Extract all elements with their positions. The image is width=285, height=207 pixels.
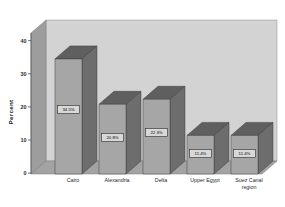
plot-left-wall [31, 20, 46, 174]
x-category-label-suez-canal-line2: region [242, 184, 257, 190]
x-category-label-delta: Delta [155, 177, 167, 183]
chart-canvas: 40 30 20 10 0 Percent [0, 0, 285, 207]
y-tick-label: 30 [21, 71, 27, 77]
x-category-label-alexandria: Alexandria [104, 177, 129, 183]
bar-value-label: 11.4% [234, 150, 256, 158]
value-label-text: 11.4% [195, 151, 207, 156]
bar-value-label: 11.4% [190, 150, 212, 158]
x-category-label-upper-egypt: Upper Egypt [190, 177, 220, 183]
bar-cairo[interactable]: 34.5% [55, 46, 97, 174]
bar-upper-egypt[interactable]: 11.4% [187, 122, 229, 174]
y-tick-label: 0 [24, 170, 27, 176]
bar-front-face [55, 59, 82, 174]
value-label-text: 34.5% [62, 107, 74, 112]
bar-chart: 40 30 20 10 0 Percent [0, 0, 285, 207]
bar-side-face [170, 86, 185, 174]
value-label-text: 20.8% [106, 135, 118, 140]
value-label-text: 11.4% [239, 151, 251, 156]
bar-delta[interactable]: 22.3% [143, 86, 185, 174]
bar-suez-canal-region[interactable]: 11.4% [231, 122, 273, 174]
y-tick-label: 20 [21, 104, 27, 110]
bar-value-label: 22.3% [146, 129, 168, 137]
bar-value-label: 20.8% [102, 134, 124, 142]
bar-side-face [82, 46, 97, 174]
bar-value-label: 34.5% [58, 106, 80, 114]
bar-side-face [126, 91, 141, 174]
value-label-text: 22.3% [150, 130, 162, 135]
x-category-label-suez-canal: Suez Canal [235, 177, 262, 183]
y-axis-title: Percent [7, 100, 14, 125]
y-tick-label: 10 [21, 137, 27, 143]
bar-alexandria[interactable]: 20.8% [99, 91, 141, 174]
x-category-label-cairo: Cairo [67, 177, 80, 183]
y-tick-label: 40 [21, 38, 27, 44]
